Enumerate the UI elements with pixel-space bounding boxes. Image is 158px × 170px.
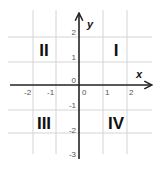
quadrant-label-iv: IV [108, 114, 125, 133]
y-tick-labels: 2 1 0 -1 -2 -3 [69, 28, 77, 159]
y-tick-label: -1 [69, 101, 77, 110]
x-tick-label: -1 [47, 88, 55, 97]
x-tick-label: -2 [24, 88, 32, 97]
quadrant-label-iii: III [37, 114, 51, 133]
x-tick-label: 1 [105, 88, 110, 97]
grid-lines [8, 10, 152, 154]
y-tick-label: 1 [72, 53, 77, 62]
y-tick-label: -2 [69, 126, 77, 135]
x-axis-label: x [135, 68, 143, 80]
x-tick-label: 0 [82, 88, 87, 97]
x-tick-label: 2 [129, 88, 134, 97]
coordinate-plane: x y -2 -1 0 1 2 2 1 0 -1 -2 -3 II I III … [0, 0, 158, 170]
y-tick-label: -3 [69, 150, 77, 159]
y-tick-label: 0 [72, 76, 77, 85]
quadrant-label-i: I [114, 41, 119, 60]
y-axis-label: y [86, 18, 94, 30]
y-tick-label: 2 [72, 28, 77, 37]
quadrant-label-ii: II [39, 41, 48, 60]
